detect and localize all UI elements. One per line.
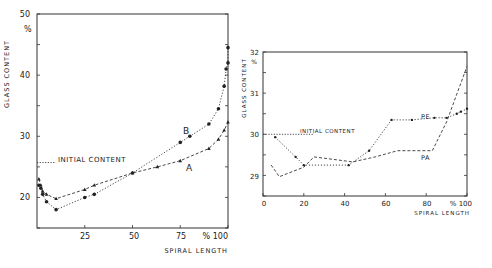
data-point [83, 187, 87, 190]
data-point [433, 117, 435, 119]
data-point [226, 61, 230, 65]
left-x-tick-25: 25 [80, 232, 90, 241]
right-x-axis-title: SPIRAL LENGTH [414, 210, 470, 216]
data-point [222, 128, 226, 131]
right-y-tick-31: 31 [250, 90, 259, 98]
data-point [222, 84, 226, 88]
right-x-tick-0: 0 [262, 200, 266, 208]
data-point [217, 107, 221, 111]
data-point [188, 134, 192, 138]
right-series [263, 66, 468, 176]
left-x-tick-100: % 100 [203, 232, 228, 241]
left-series-b-label: B [183, 126, 189, 136]
right-x-tick-80: 80 [423, 200, 432, 208]
data-point [224, 67, 228, 71]
data-point [226, 46, 230, 50]
data-point [41, 193, 45, 197]
data-point [347, 164, 349, 166]
right-x-tick-100: % 100 [450, 200, 472, 208]
right-ticks [263, 52, 467, 196]
data-point [456, 113, 458, 115]
left-y-unit: % [24, 25, 32, 34]
data-point [460, 110, 462, 112]
data-point [217, 137, 221, 140]
left-x-tick-50: 50 [129, 232, 139, 241]
left-y-tick-30: 30 [20, 132, 30, 141]
data-point [54, 208, 58, 212]
data-point [178, 141, 182, 145]
series-line-b [39, 48, 228, 210]
data-point [37, 177, 41, 180]
data-point [390, 119, 392, 121]
data-point [207, 122, 211, 126]
left-x-axis-title: SPIRAL LENGTH [164, 247, 228, 255]
series-line-pe [275, 109, 467, 165]
right-plot-frame [263, 52, 467, 196]
right-y-axis-title: GLASS CONTENT [241, 58, 247, 118]
data-point [274, 136, 276, 138]
left-chart: GLASS CONTENT % 50 40 30 20 25 50 75 % 1… [3, 10, 230, 255]
right-y-unit: % [251, 58, 257, 65]
data-point [93, 193, 97, 197]
left-plot-frame [37, 14, 228, 228]
left-y-tick-50: 50 [20, 10, 30, 19]
right-y-tick-32: 32 [250, 49, 259, 57]
left-series-a-label: A [186, 163, 193, 173]
data-point [178, 159, 182, 162]
right-x-tick-40: 40 [341, 200, 350, 208]
right-chart: GLASS CONTENT % 32 31 30 29 0 20 40 60 8… [241, 49, 472, 216]
left-x-tick-75: 75 [176, 232, 186, 241]
data-point [466, 108, 468, 110]
left-y-tick-40: 40 [20, 71, 30, 80]
data-point [294, 156, 296, 158]
figure: GLASS CONTENT % 50 40 30 20 25 50 75 % 1… [0, 0, 492, 268]
left-series [37, 46, 230, 212]
left-ticks [37, 14, 228, 228]
left-y-tick-20: 20 [20, 193, 30, 202]
right-series-pe-label: PE [421, 113, 430, 121]
series-line-pa [271, 66, 467, 176]
right-x-tick-20: 20 [300, 200, 309, 208]
right-y-tick-29: 29 [250, 173, 259, 181]
data-point [83, 196, 87, 200]
right-initial-content-label: INITIAL CONTENT [300, 128, 355, 134]
left-y-axis-title: GLASS CONTENT [3, 40, 11, 108]
right-x-tick-60: 60 [382, 200, 391, 208]
right-y-tick-30: 30 [250, 131, 259, 139]
data-point [411, 119, 413, 121]
data-point [368, 150, 370, 152]
data-point [45, 200, 49, 204]
left-initial-content-label: INITIAL CONTENT [58, 156, 126, 164]
data-point [226, 120, 230, 123]
right-series-pa-label: PA [421, 154, 430, 162]
